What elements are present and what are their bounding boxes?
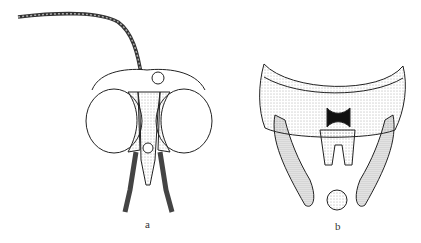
panel-a-head bbox=[18, 14, 212, 212]
figure-illustration bbox=[0, 0, 421, 243]
panel-label-b: b bbox=[335, 220, 341, 232]
panel-label-a: a bbox=[145, 218, 150, 230]
panel-b-genitalia bbox=[260, 64, 406, 210]
